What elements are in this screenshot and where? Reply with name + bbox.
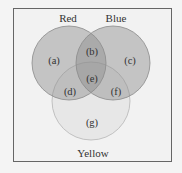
region-g-label: (g) [86, 117, 99, 129]
region-c-label: (c) [124, 55, 136, 67]
blue-set-label: Blue [106, 12, 127, 24]
region-d-label: (d) [64, 86, 77, 98]
region-f-label: (f) [111, 86, 122, 98]
region-e-label: (e) [86, 73, 98, 85]
region-a-label: (a) [48, 55, 60, 67]
red-set-label: Red [59, 12, 77, 24]
venn-diagram: Red Blue Yellow (a) (b) (c) (d) (e) (f) … [0, 0, 182, 173]
region-b-label: (b) [86, 46, 99, 58]
yellow-set-label: Yellow [77, 147, 108, 159]
